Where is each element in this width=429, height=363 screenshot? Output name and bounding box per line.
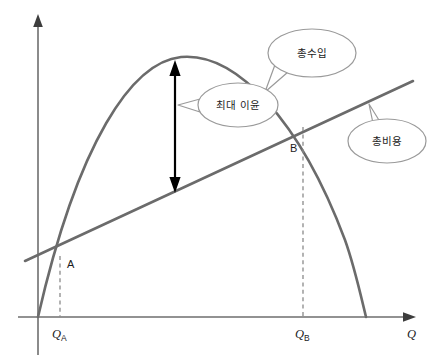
x-tick-label-qb: QB <box>295 327 310 343</box>
callout-maximum-profit-tail <box>178 99 200 112</box>
x-axis-arrowhead <box>403 312 416 322</box>
x-tick-labels-group: QA QB Q <box>52 327 416 343</box>
profit-gap-arrow <box>169 60 180 193</box>
chart-canvas: 총수입 총비용 최대 이윤 A B QA QB Q <box>0 0 429 363</box>
profit-arrow-head-top <box>169 60 180 76</box>
callout-maximum-profit-label: 최대 이윤 <box>216 99 259 111</box>
x-tick-qa-var: Q <box>52 327 61 341</box>
x-axis-title: Q <box>407 327 416 341</box>
callout-maximum-profit[interactable]: 최대 이윤 <box>178 83 278 127</box>
callout-total-revenue[interactable]: 총수입 <box>265 29 356 92</box>
point-label-b: B <box>290 142 297 154</box>
y-axis-arrowhead <box>33 14 43 27</box>
drop-lines-group <box>60 127 303 317</box>
point-label-a: A <box>67 258 75 270</box>
x-tick-label-qa: QA <box>52 327 67 343</box>
x-tick-qb-var: Q <box>295 327 304 341</box>
x-tick-qa-sub: A <box>61 333 67 343</box>
callout-total-cost[interactable]: 총비용 <box>348 104 426 163</box>
economics-diagram: 총수입 총비용 최대 이윤 A B QA QB Q <box>0 0 429 363</box>
callout-total-revenue-label: 총수입 <box>297 47 327 59</box>
x-tick-qb-sub: B <box>304 333 310 343</box>
point-labels-group: A B <box>67 142 297 270</box>
callout-total-cost-label: 총비용 <box>372 135 402 147</box>
